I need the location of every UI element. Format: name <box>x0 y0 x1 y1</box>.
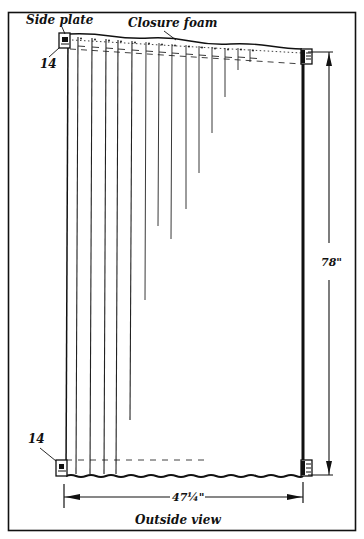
fin-line <box>116 40 118 474</box>
foam-dot <box>174 45 176 47</box>
foam-dot <box>108 40 110 42</box>
callout-14-top-leader <box>49 48 59 57</box>
fin-tick <box>92 47 99 48</box>
fin-line <box>145 42 146 300</box>
fin-tick <box>238 57 245 58</box>
fin-tick <box>225 57 232 58</box>
top-closure-foam <box>69 34 302 64</box>
closure-foam-label: Closure foam <box>128 16 217 30</box>
foam-dot <box>227 49 229 51</box>
width-dimension-label: 47¼" <box>172 491 205 504</box>
foam-dot <box>94 39 96 41</box>
bottom-edge <box>66 475 303 477</box>
foam-dot <box>120 41 122 43</box>
foam-dot <box>148 43 150 45</box>
height-dimension-label: 78" <box>321 256 342 269</box>
fin-line <box>76 37 78 474</box>
fin-tick <box>106 48 113 49</box>
foam-dot <box>188 46 190 48</box>
fin-tick <box>118 49 125 50</box>
left-frame <box>66 34 68 476</box>
fin-tick <box>132 50 139 51</box>
foam-dot <box>240 49 242 51</box>
fin-tick <box>146 51 153 52</box>
side-plate-bottom-right <box>301 460 312 476</box>
callout-14-bottom-leader <box>40 448 56 461</box>
fin-tick <box>172 53 179 54</box>
fin-line <box>90 38 92 474</box>
foam-dot <box>201 47 203 49</box>
fin-line <box>158 43 159 226</box>
fin-tick <box>78 46 85 47</box>
foam-dot <box>161 44 163 46</box>
foam-dot <box>80 38 82 40</box>
fin-tick <box>250 58 257 59</box>
fin-tick <box>212 56 219 57</box>
side-plate-label: Side plate <box>26 13 94 27</box>
side-plate-bottom-left <box>56 460 67 476</box>
side-plate-top-right <box>301 49 312 64</box>
side-plate-top-left <box>59 33 70 48</box>
foam-dot <box>214 48 216 50</box>
collector-drawing: Side plate Closure foam 14 14 78" 47¼" O… <box>0 0 364 539</box>
fin-tick <box>186 54 193 55</box>
callout-14-bottom: 14 <box>28 432 45 446</box>
foam-dot <box>252 50 254 52</box>
fin-tick <box>159 52 166 53</box>
fin-line <box>130 41 132 420</box>
callout-14-top: 14 <box>40 57 57 71</box>
fin-line <box>171 44 172 239</box>
fin-tick <box>199 55 206 56</box>
fin-lines <box>76 37 257 474</box>
caption: Outside view <box>135 513 221 527</box>
foam-dot <box>134 42 136 44</box>
fin-line <box>104 39 106 474</box>
